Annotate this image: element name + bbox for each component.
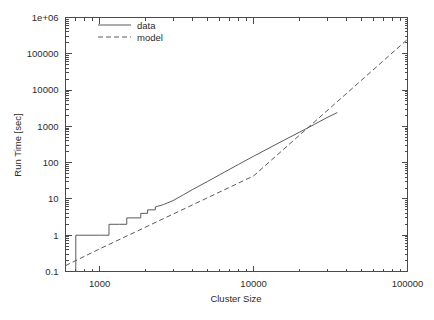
chart-figure: 1e+061000001000010001001010.1 1000100001…: [0, 0, 434, 320]
y-tick-label: 100: [43, 157, 59, 168]
y-tick-label: 10: [48, 193, 59, 204]
y-axis-tick-labels: 1e+061000001000010001001010.1: [27, 12, 59, 277]
y-tick-label: 1000: [37, 121, 58, 132]
chart-legend: data model: [98, 20, 163, 43]
y-tick-label: 100000: [27, 48, 59, 59]
series-model: [66, 39, 408, 265]
y-tick-label: 1e+06: [32, 12, 59, 23]
y-tick-label: 10000: [32, 84, 58, 95]
y-tick-label: 1: [53, 230, 58, 241]
plot-frame: [66, 18, 408, 272]
x-axis-tick-labels: 100010000100000: [89, 278, 423, 289]
axis-tickmarks: [66, 18, 408, 272]
y-axis-title: Run Time [sec]: [12, 113, 23, 176]
x-tick-label: 1000: [89, 278, 110, 289]
legend-label-data: data: [137, 20, 156, 31]
x-axis-title: Cluster Size: [210, 293, 261, 304]
data-series-group: [66, 39, 408, 271]
x-tick-label: 100000: [392, 278, 424, 289]
x-tick-label: 10000: [240, 278, 266, 289]
legend-label-model: model: [137, 32, 163, 43]
y-tick-label: 0.1: [45, 266, 58, 277]
chart-canvas: 1e+061000001000010001001010.1 1000100001…: [0, 0, 434, 320]
